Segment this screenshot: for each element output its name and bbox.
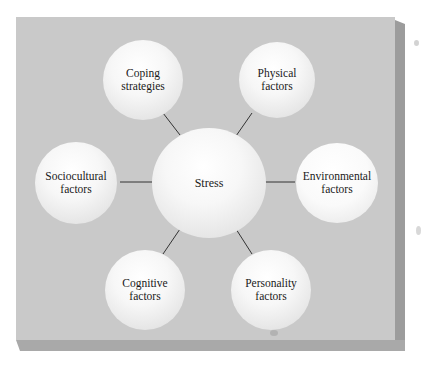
node-label-line1: Coping bbox=[121, 67, 164, 80]
node-label-line1: Cognitive bbox=[122, 277, 167, 290]
node-label-line2: factors bbox=[45, 183, 106, 196]
scan-speck bbox=[270, 330, 278, 336]
connector-personality bbox=[236, 229, 252, 254]
node-label-line2: factors bbox=[245, 290, 297, 303]
connector-coping bbox=[163, 113, 180, 135]
node-cognitive-factors: Cognitive factors bbox=[105, 250, 185, 330]
center-label: Stress bbox=[195, 177, 224, 190]
node-stress-center: Stress bbox=[152, 128, 266, 238]
node-label-line1: Environmental bbox=[303, 170, 371, 183]
node-sociocultural-factors: Sociocultural factors bbox=[35, 142, 117, 224]
node-label-line2: factors bbox=[258, 80, 297, 93]
node-physical-factors: Physical factors bbox=[239, 42, 315, 118]
node-coping-strategies: Coping strategies bbox=[103, 40, 183, 120]
node-personality-factors: Personality factors bbox=[231, 250, 311, 330]
node-environmental-factors: Environmental factors bbox=[296, 143, 378, 223]
scan-speck bbox=[416, 226, 421, 235]
node-label-line1: Physical bbox=[258, 67, 297, 80]
connector-physical bbox=[236, 113, 252, 136]
connector-cognitive bbox=[163, 229, 180, 254]
node-label-line1: Personality bbox=[245, 277, 297, 290]
scan-speck bbox=[414, 40, 419, 46]
node-label-line2: strategies bbox=[121, 80, 164, 93]
node-label-line2: factors bbox=[303, 183, 371, 196]
node-label-line1: Sociocultural bbox=[45, 170, 106, 183]
node-label-line2: factors bbox=[122, 290, 167, 303]
